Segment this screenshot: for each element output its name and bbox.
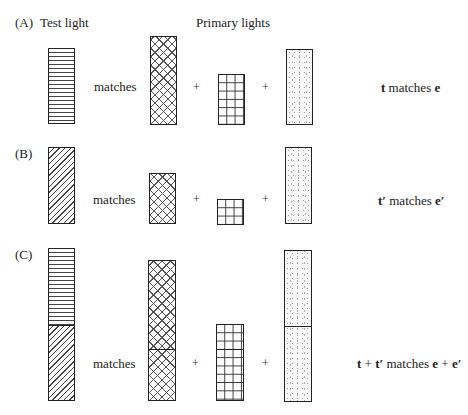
result-equation-b: t′ matches e′ <box>378 194 445 207</box>
primary-2-divider <box>217 349 243 350</box>
matches-label-c: matches <box>93 357 136 370</box>
plus-sign-b2: + <box>262 193 269 205</box>
result-matches-c: matches <box>383 356 432 371</box>
vector-t-prime-c: t′ <box>375 356 383 371</box>
primary-2-box-b <box>217 199 244 225</box>
result-equation-a: t matches e <box>381 81 440 94</box>
panel-label-a: (A) <box>15 16 33 29</box>
plus-sign-a1: + <box>193 81 200 93</box>
primary-1-box-b <box>149 173 176 224</box>
result-matches-a: matches <box>385 80 434 95</box>
test-sum-t-prime-part <box>49 325 74 400</box>
primary-2-box-a <box>218 74 245 125</box>
vector-e-prime: e′ <box>435 193 444 208</box>
vector-e: e <box>434 80 440 95</box>
test-sum-divider <box>49 325 74 326</box>
result-equation-c: t + t′ matches e + e′ <box>357 357 461 370</box>
primary-lights-heading: Primary lights <box>196 16 270 29</box>
primary-1-box-a <box>150 36 177 125</box>
plus-sign-c2: + <box>262 357 269 369</box>
plus-sign-a2: + <box>262 81 269 93</box>
test-light-sum-box <box>48 248 75 401</box>
primary-3-divider <box>285 326 311 327</box>
panel-label-b: (B) <box>15 147 32 160</box>
primary-1-divider <box>149 349 175 350</box>
test-sum-t-part <box>49 249 74 325</box>
primary-3-box-b <box>285 147 312 224</box>
primary-2-box-c <box>216 324 244 401</box>
test-light-heading: Test light <box>40 16 89 29</box>
plus-sign-c1: + <box>192 357 199 369</box>
test-light-t-prime-box <box>48 147 75 224</box>
test-light-t-box <box>48 48 75 124</box>
plus-e: + <box>438 356 452 371</box>
vector-t-prime: t′ <box>378 193 386 208</box>
primary-3-box-a <box>286 49 313 125</box>
plus-sign-b1: + <box>193 193 200 205</box>
primary-3-box-c <box>284 250 312 402</box>
plus-t: + <box>361 356 375 371</box>
vector-e-prime-c: e′ <box>452 356 461 371</box>
matches-label-b: matches <box>93 193 136 206</box>
primary-1-box-c <box>148 260 176 401</box>
result-matches-b: matches <box>386 193 435 208</box>
matches-label-a: matches <box>94 80 137 93</box>
panel-label-c: (C) <box>15 248 32 261</box>
